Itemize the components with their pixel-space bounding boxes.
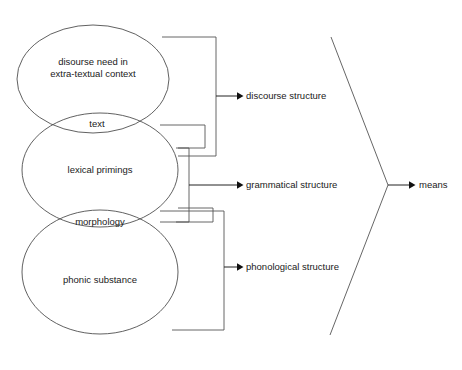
bracket-discourse-outer [162,37,216,156]
arrow-head-means [409,181,416,189]
result-means-label: means [419,179,448,190]
output-grammatical-structure-label: grammatical structure [246,179,337,190]
arrow-head-discourse [237,92,244,100]
ellipse-phonic-label: phonic substance [63,274,137,285]
bracket-text-inner [160,125,205,148]
ellipse-lexical-label: lexical primings [68,164,133,175]
vee-bracket [330,37,388,335]
bracket-morphology-inner [160,208,213,222]
ellipse-discourse-label-line1: disourse need in [58,56,128,67]
bracket-phonic-outer [160,211,224,330]
arrow-head-phonological [237,263,244,271]
output-discourse-structure-label: discourse structure [246,90,326,101]
ellipse-discourse-label-line2: extra-textual context [50,68,136,79]
ellipse-phonic [22,210,178,334]
arrow-head-grammatical [237,181,244,189]
stratification-diagram: disourse need in extra-textual context l… [0,0,462,370]
intersection-morphology-label: morphology [75,216,125,227]
intersection-text-label: text [89,118,105,129]
diagram-canvas: disourse need in extra-textual context l… [0,0,462,370]
output-phonological-structure-label: phonological structure [246,261,339,272]
